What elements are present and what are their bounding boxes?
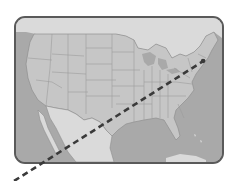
figure-canvas [0,0,235,181]
map-frame [14,16,224,164]
cropped-caption-text [30,0,210,4]
usa-map [16,18,222,162]
